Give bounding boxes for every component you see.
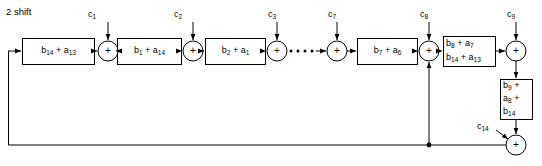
coefficient-label-c9: c9 xyxy=(507,10,515,20)
coefficient-label-c2: c2 xyxy=(174,10,182,20)
diagram-canvas: 2 shift + + + + + + + c1 c2 c3 c7 c8 c9 … xyxy=(0,0,542,166)
block-label-b9-a8-b14: b9 + a8 + b14 xyxy=(500,79,533,120)
block-label-b8-a7: b8 + a7 b14 + a13 xyxy=(443,36,496,67)
wire-c14-input xyxy=(496,130,508,139)
adder-c2-plus-icon: + xyxy=(190,46,196,56)
coefficient-label-c14: c14 xyxy=(477,122,489,132)
block-label-b14-a13: b14 + a13 xyxy=(22,38,95,65)
block-label-b2-a1: b2 + a1 xyxy=(205,38,266,65)
ellipsis-dots xyxy=(290,50,314,53)
adder-c14-plus-icon: + xyxy=(513,140,519,150)
coefficient-label-c3: c3 xyxy=(268,10,276,20)
coefficient-label-c8: c8 xyxy=(420,10,428,20)
wire-feedback-bus xyxy=(9,51,507,145)
diagram-title: 2 shift xyxy=(6,6,31,17)
adder-c7-plus-icon: + xyxy=(334,46,340,56)
coefficient-label-c7: c7 xyxy=(328,10,336,20)
adder-c8-plus-icon: + xyxy=(426,46,432,56)
junction-dot xyxy=(427,143,432,148)
diagram-vector-layer xyxy=(0,0,542,166)
block-label-b7-a6: b7 + a6 xyxy=(357,38,418,65)
block-label-b1-a14: b1 + a14 xyxy=(117,38,182,65)
adder-c3-plus-icon: + xyxy=(274,46,280,56)
adder-c9-plus-icon: + xyxy=(513,46,519,56)
coefficient-label-c1: c1 xyxy=(88,10,96,20)
adder-c1-plus-icon: + xyxy=(105,46,111,56)
